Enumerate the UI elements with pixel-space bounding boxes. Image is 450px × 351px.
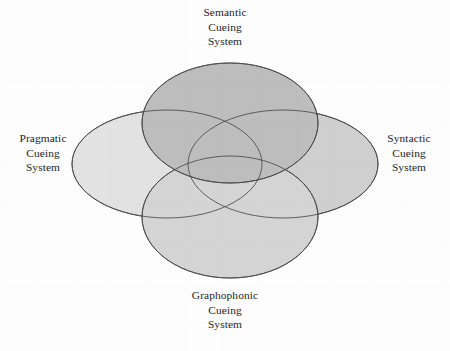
venn-label-syntactic-line-3: System — [369, 160, 449, 175]
venn-label-semantic-line-1: Semantic — [0, 5, 450, 20]
venn-label-semantic-line-3: System — [0, 34, 450, 49]
venn-label-syntactic-line-1: Syntactic — [369, 131, 449, 146]
venn-label-graphophonic-line-1: Graphophonic — [0, 288, 450, 303]
venn-label-pragmatic-line-1: Pragmatic — [2, 131, 84, 146]
venn-label-pragmatic: Pragmatic Cueing System — [2, 131, 84, 175]
venn-ellipse-semantic[interactable] — [142, 63, 318, 183]
venn-label-pragmatic-line-3: System — [2, 160, 84, 175]
venn-label-syntactic: Syntactic Cueing System — [369, 131, 449, 175]
venn-label-graphophonic-line-3: System — [0, 317, 450, 332]
venn-label-graphophonic-line-2: Cueing — [0, 303, 450, 318]
venn-label-semantic-line-2: Cueing — [0, 20, 450, 35]
venn-label-pragmatic-line-2: Cueing — [2, 146, 84, 161]
venn-label-graphophonic: Graphophonic Cueing System — [0, 288, 450, 332]
venn-diagram: Semantic Cueing System Pragmatic Cueing … — [0, 0, 450, 351]
venn-label-semantic: Semantic Cueing System — [0, 5, 450, 49]
venn-label-syntactic-line-2: Cueing — [369, 146, 449, 161]
